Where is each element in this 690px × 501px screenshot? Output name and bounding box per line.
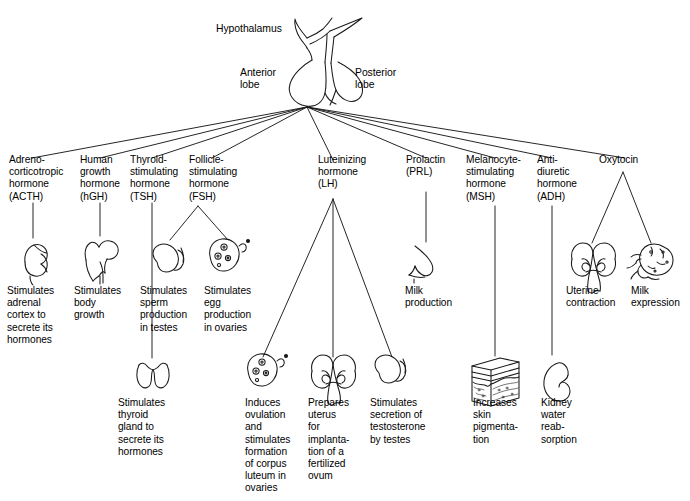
effect-label-oxytocin-milk: Milk expression (631, 285, 689, 309)
testis-icon (153, 244, 184, 272)
ovary-icon (210, 239, 250, 271)
effect-label-adh: Kidney water reab- sorption (541, 397, 597, 446)
breast-icon (409, 246, 433, 283)
hormone-label-fsh: Follicle- stimulating hormone (FSH) (189, 154, 251, 203)
adrenal-gland-icon (25, 244, 47, 285)
hormone-label-acth: Adreno- corticotropic hormone (ACTH) (9, 154, 81, 203)
effect-label-fsh-ovaries: Stimulates egg production in ovaries (204, 285, 268, 334)
effect-label-prl: Milk production (405, 285, 467, 309)
effect-label-acth: Stimulates adrenal cortex to secrete its… (7, 285, 73, 346)
hormone-label-msh: Melanocyte- stimulating hormone (MSH) (466, 154, 540, 203)
pituitary-hormone-diagram: Hypothalamus Anterior lobe Posterior lob… (0, 0, 690, 501)
ovary-icon (248, 354, 288, 386)
testis-icon (375, 355, 406, 383)
effect-label-lh-ovulation: Induces ovulation and stimulates formati… (245, 397, 307, 495)
femur-bone-icon (85, 241, 118, 284)
hormone-label-adh: Anti- diuretic hormone (ADH) (537, 154, 589, 203)
hormone-label-prl: Prolactin (PRL) (406, 154, 462, 178)
effect-label-msh: Increases skin pigmenta- tion (473, 397, 535, 446)
posterior-lobe-label: Posterior lobe (355, 67, 421, 91)
nursing-infant-icon (627, 244, 673, 279)
gland-to-hormone-connectors (32, 107, 625, 160)
hormone-label-oxytocin: Oxytocin (599, 154, 661, 166)
anterior-lobe-label: Anterior lobe (240, 67, 300, 91)
kidney-icon (544, 363, 570, 401)
effect-label-hgh: Stimulates body growth (74, 285, 134, 322)
effect-label-fsh-testes: Stimulates sperm production in testes (140, 285, 202, 334)
hormone-label-lh: Luteinizing hormone (LH) (318, 154, 380, 191)
effect-label-lh-testosterone: Stimulates secretion of testosterone by … (370, 397, 442, 446)
effect-label-oxytocin-uterus: Uterine contraction (566, 285, 630, 309)
effect-label-lh-uterus: Prepares uterus for implanta- tion of a … (308, 397, 368, 482)
effect-label-tsh: Stimulates thyroid gland to secrete its … (118, 397, 182, 458)
hypothalamus-label: Hypothalamus (216, 23, 306, 35)
hormone-label-tsh: Thyroid- stimulating hormone (TSH) (130, 154, 194, 203)
thyroid-gland-icon (137, 363, 169, 388)
